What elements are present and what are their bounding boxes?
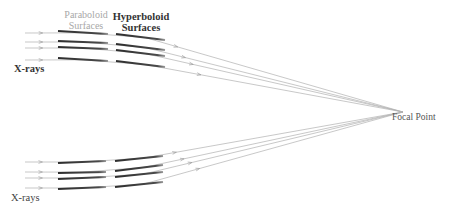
hyperboloid-mirror	[116, 44, 165, 50]
hyperboloid-surfaces-label: Hyperboloid Surfaces	[112, 11, 170, 33]
xrays-label-bottom: X-rays	[11, 192, 40, 203]
paraboloid-mirror	[58, 58, 108, 61]
xray-path	[25, 112, 403, 172]
mirror-surfaces	[58, 31, 165, 189]
paraboloid-mirror	[58, 161, 106, 163]
xray-path	[25, 33, 403, 112]
xrays-label-top: X-rays	[14, 63, 44, 74]
hyperboloid-mirror	[116, 34, 165, 40]
hyperboloid-mirror	[115, 182, 163, 187]
paraboloid-mirror	[58, 31, 108, 34]
hyperboloid-mirror	[115, 172, 163, 177]
hyperboloid-label-line2: Surfaces	[112, 22, 170, 33]
hyperboloid-mirror	[115, 156, 163, 161]
paraboloid-mirror	[58, 172, 106, 173]
paraboloid-label-line1: Paraboloid	[58, 10, 114, 21]
xray-path	[25, 60, 403, 112]
wolter-telescope-diagram	[0, 0, 451, 213]
xray-path	[25, 112, 403, 188]
paraboloid-mirror	[58, 187, 106, 189]
hyperboloid-mirror	[116, 61, 165, 67]
paraboloid-surfaces-label: Paraboloid Surfaces	[58, 10, 114, 31]
paraboloid-mirror	[58, 41, 108, 43]
paraboloid-mirror	[58, 47, 108, 49]
xray-path	[25, 112, 403, 162]
hyperboloid-label-line1: Hyperboloid	[112, 11, 170, 22]
hyperboloid-mirror	[115, 165, 163, 171]
focal-point-label: Focal Point	[392, 113, 436, 123]
paraboloid-label-line2: Surfaces	[58, 21, 114, 32]
paraboloid-mirror	[58, 177, 106, 179]
xray-paths	[25, 33, 403, 188]
